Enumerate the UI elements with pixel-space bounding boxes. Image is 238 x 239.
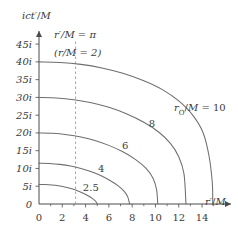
figure-schwarzschild-infall: 0246810121405i10i15i20i25i30i35i40i45i2.…: [0, 0, 238, 239]
x-tick-label-0: 0: [36, 212, 42, 223]
x-tick-label-10: 10: [149, 212, 162, 223]
x-tick-label-14: 14: [196, 212, 209, 223]
curve-label-2-5: 2.5: [83, 182, 99, 193]
curve-r0-10: [39, 62, 213, 204]
x-tick-label-12: 12: [172, 212, 185, 223]
y-axis-label: ict′/M: [22, 10, 51, 21]
x-tick-label-4: 4: [82, 212, 88, 223]
y-tick-label-10i: 10i: [16, 163, 32, 174]
y-tick-label-40i: 40i: [15, 56, 32, 67]
curve-label-r0-over-m: rO/M = 10: [174, 102, 226, 117]
y-tick-label-30i: 30i: [16, 92, 32, 103]
curve-label-6: 6: [122, 140, 128, 151]
x-tick-label-8: 8: [129, 212, 135, 223]
curve-label-4: 4: [98, 163, 104, 174]
curve-r0-8: [39, 97, 186, 204]
x-tick-label-6: 6: [106, 212, 112, 223]
curve-label-8: 8: [149, 118, 155, 129]
y-tick-label-20i: 20i: [15, 127, 32, 138]
y-tick-label-0: 0: [26, 199, 33, 210]
y-tick-label-15i: 15i: [16, 145, 32, 156]
annotation-r-prime-pi: r′/M = π: [54, 29, 96, 40]
annotation-r-over-m-two: (r/M = 2): [54, 47, 101, 58]
y-tick-label-25i: 25i: [15, 110, 32, 121]
y-tick-label-5i: 5i: [22, 181, 32, 192]
plot-canvas: 0246810121405i10i15i20i25i30i35i40i45i2.…: [0, 0, 238, 239]
x-axis-label: r′/M: [205, 196, 226, 207]
x-tick-label-2: 2: [59, 212, 65, 223]
y-tick-label-45i: 45i: [15, 39, 32, 50]
y-tick-label-35i: 35i: [16, 74, 32, 85]
